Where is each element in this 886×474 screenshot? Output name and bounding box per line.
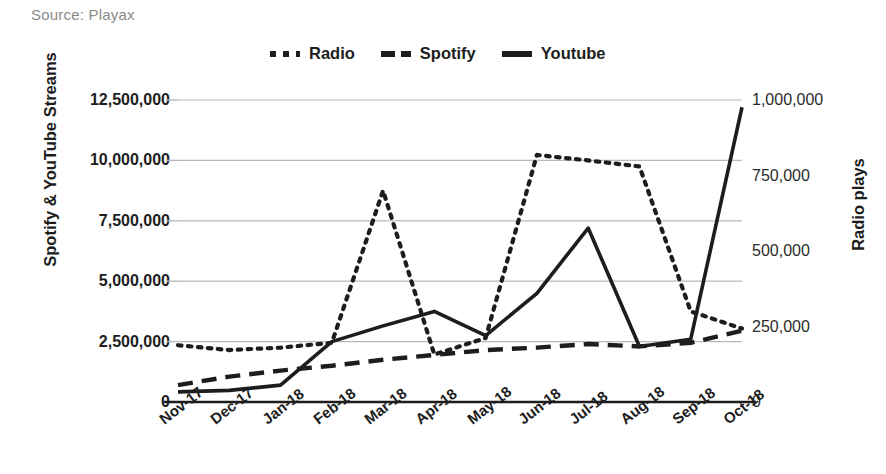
chart-plot-area bbox=[0, 0, 886, 474]
gridlines bbox=[166, 100, 742, 342]
series-lines bbox=[178, 107, 742, 392]
series-line-spotify bbox=[178, 331, 742, 385]
